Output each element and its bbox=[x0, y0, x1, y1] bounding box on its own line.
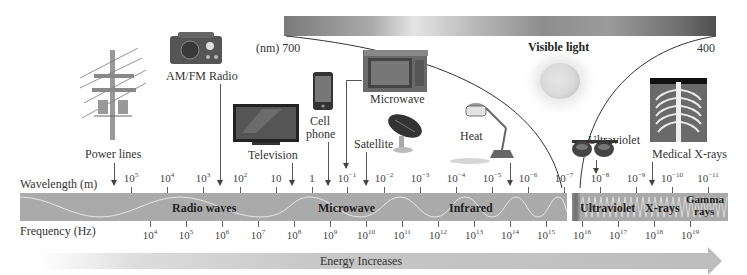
frequency-axis-label: Frequency (Hz) bbox=[20, 224, 96, 239]
frequency-tick-label: 108 bbox=[287, 229, 302, 241]
wavelength-tick-label: 10−9 bbox=[627, 172, 645, 184]
frequency-tick-label: 1018 bbox=[645, 229, 663, 241]
energy-increases-label: Energy Increases bbox=[320, 254, 402, 269]
frequency-tick-label: 1016 bbox=[573, 229, 591, 241]
wavelength-tick-label: 104 bbox=[160, 172, 175, 184]
region-label-radio-waves: Radio waves bbox=[172, 201, 236, 216]
radio-arrow bbox=[220, 84, 221, 185]
wavelength-tick-label: 10−3 bbox=[411, 172, 429, 184]
frequency-tick-label: 109 bbox=[323, 229, 338, 241]
ultraviolet-source-label: Ultraviolet bbox=[588, 133, 640, 148]
region-label-infrared: Infrared bbox=[449, 201, 493, 216]
wavelength-tick-label: 10−6 bbox=[519, 172, 537, 184]
microwave-pointer-arrow bbox=[346, 80, 347, 168]
radio-label: AM/FM Radio bbox=[166, 69, 238, 84]
cell-phone-icon bbox=[312, 71, 334, 111]
medical-xrays-arrow bbox=[652, 162, 653, 185]
frequency-tick-label: 1012 bbox=[429, 229, 447, 241]
heat-lamp-shadow bbox=[450, 158, 490, 164]
television-arrow bbox=[292, 163, 293, 185]
wavelength-tick-label: 10 bbox=[271, 172, 282, 184]
satellite-label: Satellite bbox=[354, 137, 393, 152]
frequency-tick-label: 104 bbox=[143, 229, 158, 241]
wavelength-tick-label: 10−4 bbox=[447, 172, 465, 184]
sun-icon bbox=[540, 63, 580, 99]
satellite-arrow bbox=[366, 152, 367, 185]
wavelength-tick-label: 10−10 bbox=[661, 172, 683, 184]
frequency-tick-label: 1019 bbox=[681, 229, 699, 241]
television-label: Television bbox=[248, 148, 298, 163]
heat-arrow bbox=[510, 163, 511, 185]
region-label-gamma: Gamma bbox=[686, 194, 724, 205]
wavelength-tick-label: 102 bbox=[233, 172, 248, 184]
microwave-pointer-horizontal bbox=[346, 80, 362, 81]
frequency-tick-label: 1014 bbox=[501, 229, 519, 241]
visible-light-strip bbox=[572, 193, 580, 221]
frequency-tick-label: 107 bbox=[251, 229, 266, 241]
wavelength-tick-label: 10−5 bbox=[483, 172, 501, 184]
television-icon bbox=[232, 103, 300, 148]
wavelength-tick-label: 10−1 bbox=[338, 172, 356, 184]
region-label-ultraviolet: Ultraviolet bbox=[580, 201, 635, 216]
wavelength-tick-label: 10−11 bbox=[697, 172, 719, 184]
frequency-tick-label: 1017 bbox=[609, 229, 627, 241]
microwave-icon bbox=[362, 48, 430, 94]
wavelength-tick-label: 10−7 bbox=[555, 172, 573, 184]
radio-icon bbox=[168, 30, 230, 66]
wavelength-tick-label: 10−8 bbox=[591, 172, 609, 184]
power-lines-label: Power lines bbox=[85, 147, 141, 162]
wavelength-tick-label: 103 bbox=[196, 172, 211, 184]
frequency-tick-label: 1010 bbox=[357, 229, 375, 241]
region-label-microwave: Microwave bbox=[318, 201, 375, 216]
chest-xray-icon bbox=[650, 78, 707, 142]
frequency-tick-label: 106 bbox=[215, 229, 230, 241]
cell-phone-arrow bbox=[328, 142, 329, 185]
region-label-x-rays: X-rays bbox=[645, 201, 680, 216]
wavelength-tick-label: 1 bbox=[309, 172, 315, 184]
microwave-label: Microwave bbox=[370, 92, 425, 107]
energy-arrow-head bbox=[708, 247, 722, 275]
region-label-rays: rays bbox=[694, 206, 714, 217]
wavelength-axis-label: Wavelength (m) bbox=[20, 177, 97, 192]
frequency-tick-label: 1013 bbox=[465, 229, 483, 241]
cell-phone-label-line2: phone bbox=[306, 127, 335, 142]
medical-xrays-label: Medical X-rays bbox=[652, 147, 727, 162]
wavelength-tick-label: 105 bbox=[124, 172, 139, 184]
frequency-tick-label: 105 bbox=[179, 229, 194, 241]
heat-label: Heat bbox=[460, 129, 483, 144]
frequency-tick-label: 1015 bbox=[537, 229, 555, 241]
frequency-tick-label: 1011 bbox=[393, 229, 411, 241]
wavelength-tick-label: 10−2 bbox=[375, 172, 393, 184]
power-lines-icon bbox=[80, 48, 148, 140]
power-lines-arrow bbox=[114, 163, 115, 185]
